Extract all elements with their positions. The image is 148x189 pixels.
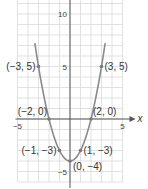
data-point (37, 65, 41, 69)
point-label: (2, 0) (93, 106, 116, 117)
y-tick-label: 10 (58, 10, 67, 19)
point-label: (0, −4) (73, 161, 102, 172)
y-tick-label: 5 (63, 63, 68, 72)
x-tick-label: −5 (13, 122, 23, 131)
data-point (47, 117, 51, 121)
x-tick-label: 5 (120, 122, 125, 131)
point-label: (−2, 0) (18, 106, 47, 117)
data-point (79, 149, 83, 153)
data-point (89, 117, 93, 121)
point-label: (−3, 5) (6, 61, 35, 72)
data-point (68, 159, 72, 163)
x-axis-arrow-icon (130, 116, 136, 122)
point-label: (1, −3) (84, 145, 113, 156)
point-labels: (−3, 5)(3, 5)(−2, 0)(2, 0)(−1, −3)(1, −3… (6, 61, 128, 172)
data-point (100, 65, 104, 69)
parabola-chart: x −55105−5 (−3, 5)(3, 5)(−2, 0)(2, 0)(−1… (0, 0, 148, 189)
x-axis-label: x (137, 113, 144, 124)
point-label: (−1, −3) (21, 145, 56, 156)
y-tick-label: −5 (58, 168, 68, 177)
data-point (58, 149, 62, 153)
axes: x (16, 0, 144, 188)
point-label: (3, 5) (105, 61, 128, 72)
